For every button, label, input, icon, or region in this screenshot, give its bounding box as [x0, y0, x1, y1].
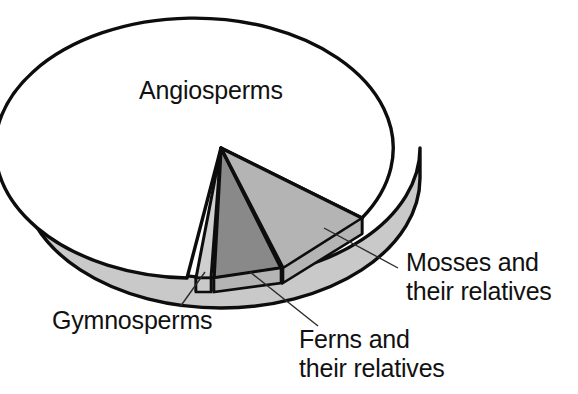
pie-chart-figure: Angiosperms Gymnosperms Ferns and their …: [0, 0, 578, 394]
label-mosses: Mosses and their relatives: [406, 248, 552, 305]
label-mosses-line-1: Mosses and: [406, 248, 539, 276]
label-ferns: Ferns and their relatives: [299, 325, 445, 382]
label-mosses-line-2: their relatives: [406, 277, 552, 305]
label-angiosperms: Angiosperms: [139, 76, 283, 104]
label-gymnosperms: Gymnosperms: [52, 306, 212, 334]
label-ferns-line-1: Ferns and: [299, 325, 410, 353]
gymnosperms-wall-face: [196, 278, 211, 292]
label-ferns-line-2: their relatives: [299, 354, 445, 382]
